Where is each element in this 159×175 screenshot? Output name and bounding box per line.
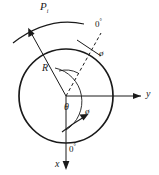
x-axis-arrowhead: [63, 161, 70, 170]
diagram-vector-layer: [0, 0, 159, 175]
zero-bottom-degree-symbol: °: [74, 143, 76, 149]
pressure-symbol: P: [40, 0, 47, 12]
figure-canvas: Pi R 0° ø θ ø y 0° x: [0, 0, 159, 175]
y-axis-label: y: [146, 89, 150, 99]
x-axis-label: x: [55, 159, 59, 169]
zero-degree-bottom-label: 0°: [69, 143, 76, 154]
theta-label: θ: [64, 102, 69, 112]
rotation-direction-arrow: [62, 117, 84, 132]
dashed-reference-line: [66, 33, 101, 96]
pressure-subscript: i: [47, 8, 49, 14]
radius-label: R: [42, 63, 48, 73]
pressure-arc: [13, 22, 84, 43]
y-axis-arrowhead: [133, 93, 141, 99]
pressure-label: Pi: [40, 1, 48, 14]
phi-outer-label: ø: [99, 49, 104, 58]
phi-inner-label: ø: [85, 107, 90, 116]
zero-top-degree-symbol: °: [100, 18, 102, 24]
zero-degree-top-label: 0°: [95, 18, 102, 29]
